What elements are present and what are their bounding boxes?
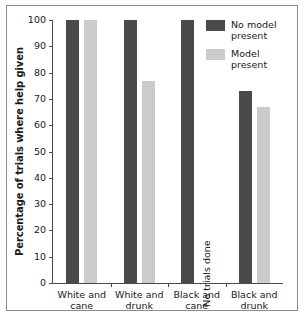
x-group-separator — [168, 283, 169, 287]
y-tick-label: 80 — [34, 68, 46, 78]
legend: No model presentModel present — [206, 19, 292, 77]
y-tick-label: 50 — [34, 147, 46, 157]
legend-label: No model present — [231, 19, 277, 41]
y-tick-label: 70 — [34, 94, 46, 104]
bar-no-model-present — [66, 20, 79, 283]
y-tick-mark — [49, 20, 53, 21]
y-tick-mark — [49, 178, 53, 179]
y-axis-title: Percentage of trials where help given — [12, 20, 26, 283]
y-tick-label: 100 — [28, 15, 46, 25]
y-axis-title-text: Percentage of trials where help given — [14, 47, 25, 256]
legend-swatch — [206, 49, 225, 60]
legend-label: Model present — [231, 48, 267, 70]
legend-item: Model present — [206, 48, 292, 70]
legend-swatch — [206, 20, 225, 31]
x-group-separator — [226, 283, 227, 287]
y-tick-mark — [49, 283, 53, 284]
bar-no-model-present — [124, 20, 137, 283]
bar-no-model-present — [181, 20, 194, 283]
chart-figure: Percentage of trials where help given 01… — [0, 0, 307, 317]
y-tick-label: 30 — [34, 199, 46, 209]
y-tick-label: 0 — [40, 278, 46, 288]
y-tick-mark — [49, 125, 53, 126]
x-axis-category-label: Black andcane — [168, 289, 226, 311]
bar-model-present — [142, 81, 155, 284]
x-axis-category-label: White anddrunk — [111, 289, 169, 311]
y-tick-mark — [49, 204, 53, 205]
legend-item: No model present — [206, 19, 292, 41]
x-axis-category-label: White andcane — [53, 289, 111, 311]
y-tick-mark — [49, 152, 53, 153]
y-tick-label: 10 — [34, 252, 46, 262]
x-axis-category-label: Black anddrunk — [226, 289, 284, 311]
y-tick-mark — [49, 73, 53, 74]
y-tick-mark — [49, 230, 53, 231]
y-tick-mark — [49, 99, 53, 100]
y-tick-mark — [49, 46, 53, 47]
y-tick-label: 20 — [34, 226, 46, 236]
y-tick-label: 60 — [34, 120, 46, 130]
y-tick-mark — [49, 257, 53, 258]
y-tick-label: 40 — [34, 173, 46, 183]
bar-model-present — [84, 20, 97, 283]
x-group-separator — [111, 283, 112, 287]
bar-model-present — [257, 107, 270, 283]
y-tick-label: 90 — [34, 42, 46, 52]
bar-no-model-present — [239, 91, 252, 283]
